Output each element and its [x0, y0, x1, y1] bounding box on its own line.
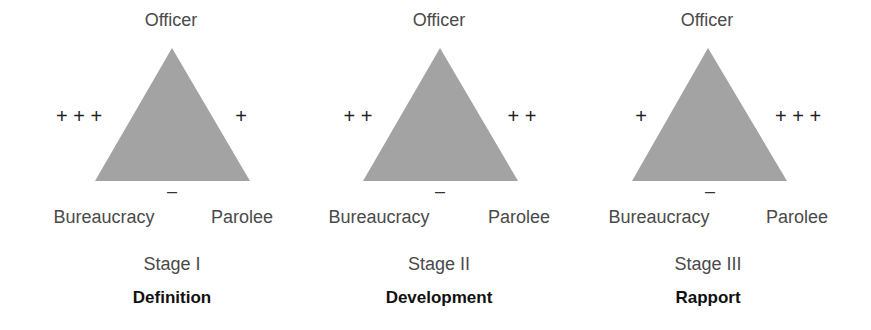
- parolee-label: Parolee: [211, 207, 273, 228]
- stage-name: Development: [386, 288, 493, 308]
- stage-label: Stage II: [408, 254, 470, 275]
- bureaucracy-parolee-sign: –: [435, 181, 445, 202]
- triangle-stage-2: [363, 48, 518, 181]
- bureaucracy-officer-sign: + +: [344, 105, 373, 128]
- parolee-label: Parolee: [488, 207, 550, 228]
- bureaucracy-label: Bureaucracy: [328, 207, 429, 228]
- officer-parolee-sign: + + +: [775, 105, 821, 128]
- officer-parolee-sign: +: [235, 105, 247, 128]
- stage-name: Rapport: [675, 288, 740, 308]
- bureaucracy-officer-sign: +: [635, 105, 647, 128]
- bureaucracy-officer-sign: + + +: [56, 105, 102, 128]
- stage-name: Definition: [133, 288, 211, 308]
- parolee-label: Parolee: [766, 207, 828, 228]
- bureaucracy-parolee-sign: –: [705, 181, 715, 202]
- stage-label: Stage I: [143, 254, 200, 275]
- officer-parolee-sign: + +: [508, 105, 537, 128]
- bureaucracy-parolee-sign: –: [167, 181, 177, 202]
- stage-label: Stage III: [674, 254, 741, 275]
- bureaucracy-label: Bureaucracy: [53, 207, 154, 228]
- officer-label: Officer: [413, 10, 466, 31]
- triangle-stage-1: [95, 48, 250, 181]
- triangle-stage-3: [632, 48, 787, 181]
- officer-label: Officer: [681, 10, 734, 31]
- officer-label: Officer: [145, 10, 198, 31]
- bureaucracy-label: Bureaucracy: [608, 207, 709, 228]
- triangles-layer: [0, 0, 871, 330]
